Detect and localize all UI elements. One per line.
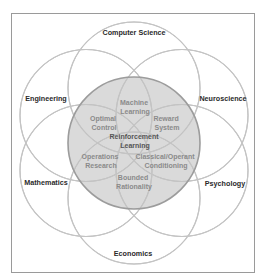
label-computer-science: Computer Science xyxy=(102,28,165,37)
rl-venn-diagram: Computer Science Engineering Neuroscienc… xyxy=(0,0,267,280)
label-economics: Economics xyxy=(114,249,152,258)
label-psychology: Psychology xyxy=(205,179,245,188)
label-neuroscience: Neuroscience xyxy=(199,94,246,103)
label-machine-learning: Machine Learning xyxy=(120,99,150,116)
label-bounded-rationality: Bounded Rationality xyxy=(116,174,152,191)
label-reward-system: Reward System xyxy=(153,115,180,132)
label-engineering: Engineering xyxy=(25,94,67,103)
label-classical-operant-conditioning: Classical/Operant Conditioning xyxy=(135,153,196,170)
label-mathematics: Mathematics xyxy=(24,178,68,187)
